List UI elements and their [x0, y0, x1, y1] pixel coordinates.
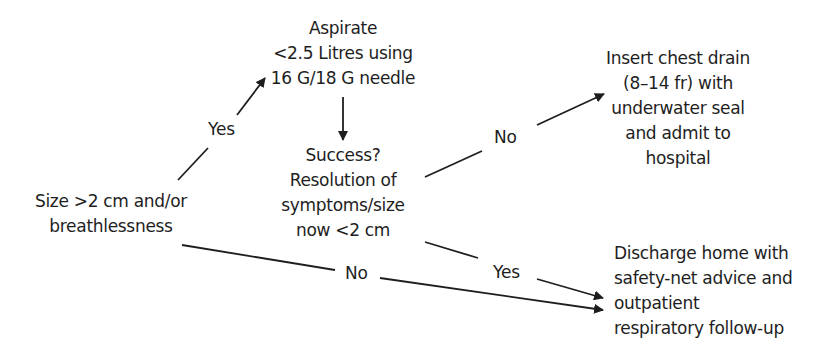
node-chest-drain-line: hospital	[598, 146, 758, 171]
node-success-line: now <2 cm	[273, 218, 413, 243]
node-start-line: breathlessness	[22, 214, 200, 239]
node-discharge: Discharge home with safety-net advice an…	[614, 241, 813, 341]
node-chest-drain-line: (8–14 fr) with	[598, 71, 758, 96]
edge-start-to-discharge	[182, 245, 603, 310]
node-aspirate-line: Aspirate	[263, 16, 423, 41]
node-start: Size >2 cm and/or breathlessness	[22, 189, 200, 239]
node-discharge-line: outpatient	[614, 291, 813, 316]
node-aspirate: Aspirate <2.5 Litres using 16 G/18 G nee…	[263, 16, 423, 91]
node-discharge-line: Discharge home with	[614, 241, 813, 266]
node-success-line: symptoms/size	[273, 193, 413, 218]
edge-label-yes-aspirate: Yes	[208, 119, 235, 139]
flowchart: Size >2 cm and/or breathlessness Aspirat…	[0, 0, 813, 361]
node-success: Success? Resolution of symptoms/size now…	[273, 143, 413, 243]
node-aspirate-line: <2.5 Litres using	[263, 41, 423, 66]
node-chest-drain-line: underwater seal	[598, 96, 758, 121]
edge-label-yes-discharge: Yes	[493, 262, 520, 282]
edge-label-no-discharge: No	[345, 263, 368, 283]
node-discharge-line: respiratory follow-up	[614, 316, 813, 341]
node-discharge-line: safety-net advice and	[614, 266, 813, 291]
node-chest-drain: Insert chest drain (8–14 fr) with underw…	[598, 46, 758, 171]
node-chest-drain-line: Insert chest drain	[598, 46, 758, 71]
node-success-line: Resolution of	[273, 168, 413, 193]
node-start-line: Size >2 cm and/or	[22, 189, 200, 214]
edge-label-no-chest-drain: No	[494, 127, 517, 147]
node-chest-drain-line: and admit to	[598, 121, 758, 146]
node-aspirate-line: 16 G/18 G needle	[263, 66, 423, 91]
node-success-line: Success?	[273, 143, 413, 168]
